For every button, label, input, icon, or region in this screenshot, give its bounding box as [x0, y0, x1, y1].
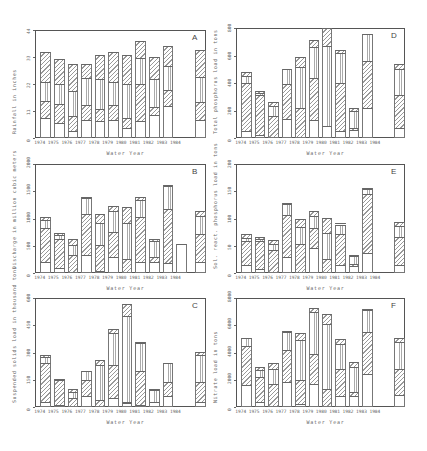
y-tick-mark — [234, 83, 236, 84]
x-tick-label: 1978 — [289, 409, 300, 414]
bar-1982 — [149, 389, 160, 407]
y-tick-label: 0 — [227, 408, 232, 411]
x-tick-label: 1981 — [329, 409, 340, 414]
bar-segment-2 — [195, 102, 206, 119]
y-tick-label: 2000 — [26, 157, 31, 168]
bar-segment-2 — [95, 400, 106, 407]
bar-segment-2 — [135, 217, 146, 262]
y-tick-label: 4000 — [227, 346, 232, 357]
y-tick-label: 500 — [26, 242, 31, 250]
bar-segment-1 — [54, 268, 65, 273]
y-tick-label: 300 — [26, 348, 31, 356]
y-tick-mark — [33, 298, 35, 299]
bar-segment-1 — [362, 108, 372, 138]
bar-segment-2 — [68, 398, 79, 407]
bar-segment-2 — [163, 209, 174, 264]
bar-segment-1 — [394, 395, 404, 407]
bar-segment-1 — [163, 263, 174, 273]
bar-segment-3 — [335, 53, 345, 83]
x-axis-label: Water Year — [307, 150, 345, 156]
bar-segment-3 — [68, 245, 79, 255]
bar-mean — [195, 50, 206, 138]
bar-segment-1 — [255, 402, 265, 407]
panel-letter: F — [391, 301, 396, 310]
bar-segment-1 — [135, 121, 146, 138]
x-tick-label: 1980 — [316, 140, 327, 145]
y-tick-mark — [234, 28, 236, 29]
bar-segment-4 — [54, 233, 65, 235]
y-tick-label: 200 — [227, 106, 232, 114]
x-tick-label: 1983 — [156, 409, 167, 414]
bar-segment-3 — [40, 357, 51, 363]
bar-segment-2 — [335, 369, 345, 396]
bar-segment-3 — [122, 84, 133, 118]
bar-segment-1 — [282, 382, 292, 407]
bar-segment-1 — [40, 118, 51, 138]
bar-segment-3 — [241, 238, 251, 241]
y-tick-label: 400 — [227, 79, 232, 87]
panel-letter: A — [192, 33, 197, 42]
bar-segment-1 — [163, 106, 174, 138]
bar-segment-1 — [335, 131, 345, 138]
bar-segment-1 — [255, 135, 265, 138]
bar-segment-1 — [135, 262, 146, 273]
y-tick-mark — [33, 407, 35, 408]
x-tick-label: 1978 — [89, 140, 100, 145]
bar-segment-1 — [255, 269, 265, 273]
bar-segment-4 — [149, 57, 160, 79]
bar-segment-2 — [40, 228, 51, 262]
y-tick-mark — [33, 246, 35, 247]
bar-segment-4 — [81, 64, 92, 78]
panel-letter: C — [192, 301, 198, 310]
bar-segment-3 — [255, 370, 265, 377]
bar-segment-2 — [394, 95, 404, 128]
bar-segment-4 — [322, 28, 332, 46]
bar-segment-1 — [135, 405, 146, 407]
x-tick-label: 1981 — [129, 409, 140, 414]
bar-segment-4 — [309, 40, 319, 47]
bar-segment-1 — [241, 131, 251, 138]
panel-letter: B — [192, 167, 197, 176]
bar-1977 — [282, 331, 292, 407]
bar-segment-4 — [282, 331, 292, 332]
bar-segment-3 — [95, 223, 106, 245]
bar-segment-4 — [149, 239, 160, 241]
x-tick-label: 1984 — [369, 409, 380, 414]
x-tick-label: 1984 — [170, 275, 181, 280]
x-tick-label: 1982 — [343, 140, 354, 145]
bar-segment-3 — [195, 77, 206, 103]
y-axis-label: Rainfall in inches — [11, 69, 17, 134]
y-axis-label: Sol. react. phosphorus load in tons — [212, 143, 218, 269]
bar-segment-3 — [40, 220, 51, 228]
x-axis-label: Water Year — [307, 285, 345, 291]
bar-segment-3 — [349, 256, 359, 264]
bar-segment-2 — [309, 78, 319, 121]
y-tick-label: 6000 — [227, 318, 232, 329]
y-tick-label: 50 — [227, 244, 232, 249]
bar-segment-3 — [394, 342, 404, 369]
bar-segment-4 — [322, 314, 332, 324]
x-tick-label: 1976 — [262, 275, 273, 280]
bar-1975 — [255, 91, 265, 138]
bar-segment-3 — [95, 365, 106, 400]
bar-segment-2 — [309, 228, 319, 248]
bar-segment-3 — [335, 344, 345, 369]
x-tick-label: 1981 — [329, 275, 340, 280]
bar-segment-4 — [309, 211, 319, 216]
bar-segment-1 — [81, 255, 92, 273]
bar-segment-4 — [195, 50, 206, 77]
bar-segment-1 — [394, 265, 404, 273]
bar-segment-1 — [108, 398, 119, 407]
bar-segment-2 — [40, 101, 51, 118]
x-tick-label: 1979 — [102, 275, 113, 280]
bar-segment-3 — [309, 312, 319, 354]
panel-letter: E — [391, 167, 396, 176]
bar-segment-3 — [322, 324, 332, 389]
y-tick-mark — [33, 273, 35, 274]
x-tick-label: 1980 — [116, 140, 127, 145]
bar-segment-1 — [54, 123, 65, 138]
bar-segment-1 — [335, 396, 345, 407]
x-tick-label: 1977 — [75, 275, 86, 280]
bar-1976 — [68, 389, 79, 407]
bar-mean — [394, 64, 404, 138]
